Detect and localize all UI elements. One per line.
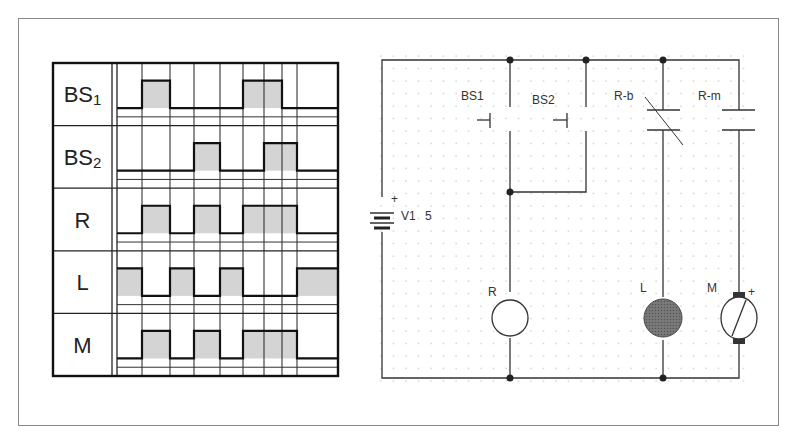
motor-plus: + [748,285,755,299]
lamp-icon [644,299,682,337]
high-fill [142,331,170,359]
high-fill [264,143,297,171]
waveform [117,143,338,171]
lamp-label: L [640,281,647,295]
row-label: BS2 [64,145,102,171]
high-fill [170,268,194,296]
high-fill [142,81,170,109]
row-label: R [75,208,91,233]
high-fill [243,331,297,359]
high-fill [142,206,170,234]
high-fill [117,268,142,296]
bs1-label: BS1 [461,89,484,103]
rm-label: R-m [698,89,721,103]
high-fill [194,331,220,359]
bs2-label: BS2 [532,93,555,107]
high-fill [194,143,220,171]
row-label: L [76,270,88,295]
high-fill [220,268,243,296]
battery-value: 5 [425,209,432,223]
timing-chart: BS1BS2RLM [53,63,338,376]
row-label: BS1 [64,82,102,108]
motor-label: M [707,281,717,295]
high-fill [194,206,220,234]
high-fill [243,81,282,109]
high-fill [243,206,297,234]
rb-label: R-b [614,89,634,103]
relay-coil-icon [492,300,528,336]
battery-name: V1 [401,209,416,223]
circuit-schematic: + V1 5 BS1 BS2 R-b R-m R [370,52,757,390]
battery-plus: + [391,192,398,206]
relay-coil-label: R [488,285,497,299]
row-label: M [73,333,91,358]
figure-canvas: BS1BS2RLM [0,0,797,448]
high-fill [297,268,338,296]
